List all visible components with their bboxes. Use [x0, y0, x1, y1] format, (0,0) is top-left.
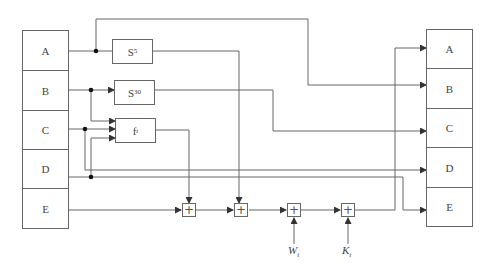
register-label: B — [446, 83, 453, 95]
label-subscript: t — [349, 251, 351, 259]
junction-b — [89, 88, 94, 93]
plus-icon: + — [236, 204, 246, 216]
junction-c — [83, 127, 88, 132]
register-label: A — [446, 43, 454, 55]
shift-s5-block: S5 — [112, 39, 153, 64]
register-label: B — [42, 85, 49, 97]
input-register-c: C — [22, 110, 69, 150]
wire-ft-to-adder1 — [155, 130, 189, 203]
wiring — [0, 0, 495, 266]
function-superscript: 5 — [134, 47, 138, 55]
ft-function-block: ft — [115, 118, 156, 143]
register-label: D — [446, 162, 454, 174]
adder-1: + — [182, 203, 196, 217]
output-register-c: C — [426, 108, 473, 148]
register-label: D — [42, 163, 50, 175]
adder-3: + — [287, 203, 301, 217]
wire-d-to-out-e — [91, 177, 426, 210]
adder-2: + — [234, 203, 248, 217]
function-subscript: t — [136, 127, 138, 135]
adder-4: + — [341, 203, 355, 217]
junction-d — [89, 175, 94, 180]
shift-s30-block: S30 — [114, 80, 155, 105]
register-label: C — [446, 122, 453, 134]
input-register-d: D — [22, 149, 69, 189]
register-label: E — [446, 201, 453, 213]
input-register-e: E — [22, 188, 69, 229]
wire-b-to-ft — [91, 90, 115, 121]
kt-label: Kt — [342, 244, 351, 259]
wire-s30-to-out-c — [154, 90, 426, 131]
register-label: C — [42, 124, 49, 136]
input-register-a: A — [22, 30, 69, 71]
output-register-a: A — [426, 29, 473, 69]
plus-icon: + — [343, 204, 353, 216]
register-label: E — [42, 203, 49, 215]
wire-adder4-to-out-a — [355, 48, 426, 210]
output-register-d: D — [426, 147, 473, 188]
wire-s5-to-adder2 — [153, 51, 239, 203]
function-superscript: 30 — [134, 88, 141, 96]
register-label: A — [42, 45, 50, 57]
junction-a — [94, 49, 99, 54]
plus-icon: + — [184, 204, 194, 216]
wt-label: Wt — [288, 244, 299, 259]
label-subscript: t — [297, 251, 299, 259]
wire-d-to-ft — [91, 138, 115, 177]
output-register-e: E — [426, 187, 473, 227]
input-register-b: B — [22, 70, 69, 111]
plus-icon: + — [289, 204, 299, 216]
output-register-b: B — [426, 68, 473, 109]
label-base: W — [288, 244, 297, 256]
